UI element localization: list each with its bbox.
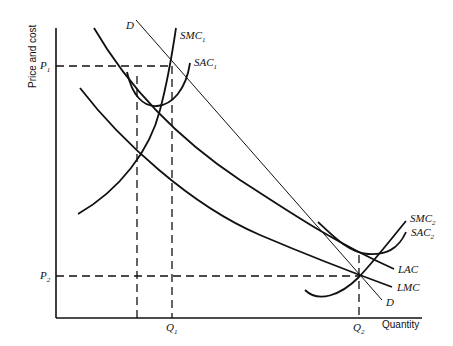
- y-axis-title: Price and cost: [28, 25, 38, 88]
- cost-curves-diagram: Price and cost Quantity P1 P2 Q1 Q2 D SM…: [0, 0, 453, 346]
- smc1-label: SMC1: [180, 30, 206, 44]
- demand-curve: [136, 20, 382, 300]
- lac-label: LAC: [398, 264, 418, 275]
- sac1-curve: [127, 63, 190, 106]
- diagram-canvas: [0, 0, 453, 346]
- x-axis-title: Quantity: [382, 320, 419, 330]
- lac-curve: [94, 28, 394, 269]
- demand-label-bottom: D: [386, 297, 394, 308]
- p1-label: P1: [40, 60, 50, 74]
- q2-label: Q2: [353, 322, 364, 336]
- demand-label-top: D: [126, 20, 134, 31]
- sac1-label: SAC1: [194, 57, 217, 71]
- lmc-label: LMC: [397, 282, 420, 293]
- p2-label: P2: [40, 270, 50, 284]
- sac2-label: SAC2: [411, 227, 434, 241]
- q1-label: Q1: [166, 322, 177, 336]
- smc1-curve: [78, 28, 176, 214]
- lmc-curve: [80, 88, 392, 287]
